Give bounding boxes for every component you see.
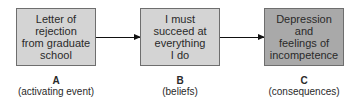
label-c-caption: (consequences)	[244, 86, 360, 97]
label-a-letter: A	[0, 75, 116, 86]
label-c: C (consequences)	[244, 75, 360, 97]
label-c-letter: C	[244, 75, 360, 86]
node-activating-event: Letter of rejection from graduate school	[16, 8, 96, 66]
label-b-letter: B	[120, 75, 240, 86]
arrow-a-to-b-icon	[96, 37, 140, 38]
arrow-b-to-c-icon	[220, 37, 264, 38]
node-c-text: Depression and feelings of incompetence	[270, 13, 339, 61]
label-a-caption: (activating event)	[0, 86, 116, 97]
node-consequences: Depression and feelings of incompetence	[264, 8, 344, 66]
label-b-caption: (beliefs)	[120, 86, 240, 97]
label-a: A (activating event)	[0, 75, 116, 97]
node-b-text: I must succeed at everything I do	[153, 13, 206, 61]
node-beliefs: I must succeed at everything I do	[140, 8, 220, 66]
label-b: B (beliefs)	[120, 75, 240, 97]
node-a-text: Letter of rejection from graduate school	[22, 13, 90, 61]
